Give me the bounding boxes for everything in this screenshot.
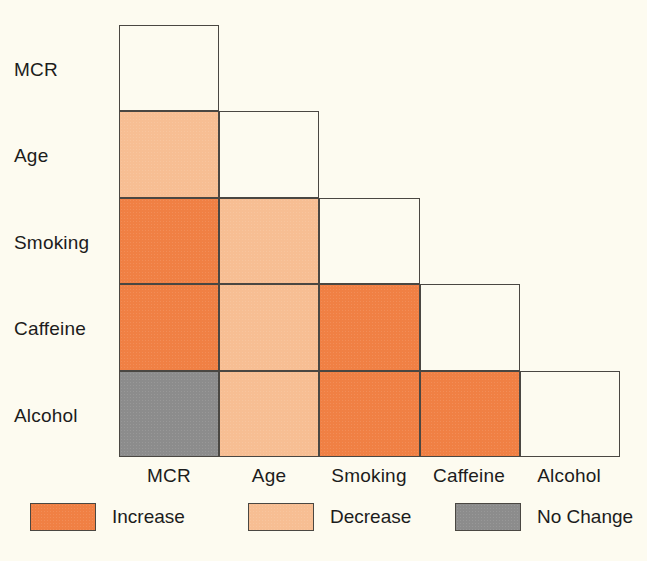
heatmap-cell [219, 284, 319, 370]
legend-swatch-increase [30, 503, 96, 531]
heatmap-cell [119, 25, 219, 111]
legend-swatch-no-change [455, 503, 521, 531]
heatmap-cell [219, 111, 319, 197]
legend-label-increase: Increase [112, 506, 185, 528]
legend-swatch-decrease [248, 503, 314, 531]
heatmap-figure: MCR Age Smoking Caffeine Alcohol MCR Age… [0, 0, 647, 561]
heatmap-cell [319, 284, 419, 370]
heatmap-cell [520, 371, 620, 457]
legend-item-decrease: Decrease [248, 500, 411, 534]
legend-item-increase: Increase [30, 500, 185, 534]
legend: Increase Decrease No Change [0, 500, 647, 550]
heatmap-matrix [119, 25, 620, 457]
legend-item-no-change: No Change [455, 500, 633, 534]
heatmap-cell [119, 284, 219, 370]
heatmap-cell [119, 198, 219, 284]
row-label-mcr: MCR [14, 59, 112, 81]
row-label-smoking: Smoking [14, 232, 112, 254]
col-label-mcr: MCR [119, 465, 219, 487]
row-label-caffeine: Caffeine [14, 318, 112, 340]
col-label-alcohol: Alcohol [519, 465, 619, 487]
col-label-age: Age [219, 465, 319, 487]
col-label-smoking: Smoking [319, 465, 419, 487]
legend-label-no-change: No Change [537, 506, 633, 528]
heatmap-cell [319, 198, 419, 284]
heatmap-cell [219, 371, 319, 457]
row-label-age: Age [14, 145, 112, 167]
heatmap-cell [219, 198, 319, 284]
col-label-caffeine: Caffeine [419, 465, 519, 487]
heatmap-cell [119, 371, 219, 457]
legend-label-decrease: Decrease [330, 506, 411, 528]
row-label-alcohol: Alcohol [14, 405, 112, 427]
heatmap-cell [420, 371, 520, 457]
heatmap-cell [319, 371, 419, 457]
heatmap-cell [420, 284, 520, 370]
heatmap-cell [119, 111, 219, 197]
